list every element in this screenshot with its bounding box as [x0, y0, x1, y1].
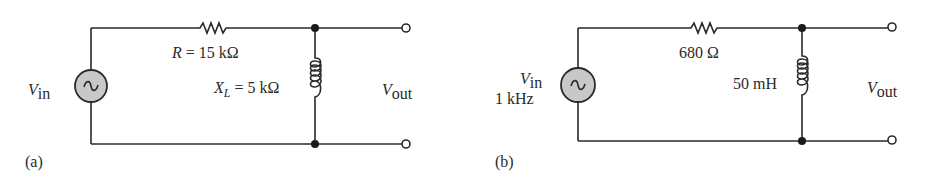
- node-top-a: [311, 24, 319, 32]
- resistor-a: [91, 23, 406, 33]
- terminal-top-a: [402, 24, 410, 32]
- circuit-b: 680 Ω 50 mH Vin 1 kHz Vout (b): [495, 23, 898, 171]
- resistor-b: [578, 23, 892, 33]
- frequency-label-b: 1 kHz: [495, 90, 534, 107]
- terminal-bottom-a: [402, 140, 410, 148]
- vout-label-b: Vout: [867, 79, 898, 100]
- resistor-label-a: R = 15 kΩ: [171, 44, 239, 61]
- vin-label-a: Vin: [28, 81, 50, 102]
- panel-label-b: (b): [495, 153, 514, 171]
- terminal-top-b: [888, 23, 896, 31]
- inductor-b: [798, 28, 809, 141]
- circuit-figure: R = 15 kΩ XL = 5 kΩ Vin Vout (a) 680 Ω 5…: [0, 0, 927, 183]
- vin-label-b: Vin: [520, 70, 542, 91]
- resistor-label-b: 680 Ω: [679, 44, 719, 61]
- node-bottom-b: [798, 137, 806, 145]
- node-top-b: [798, 24, 806, 32]
- inductor-a: [311, 28, 322, 144]
- panel-label-a: (a): [25, 153, 43, 171]
- inductor-label-a: XL = 5 kΩ: [213, 79, 279, 100]
- terminal-bottom-b: [888, 136, 896, 144]
- vout-label-a: Vout: [382, 81, 413, 102]
- inductor-label-b: 50 mH: [733, 75, 777, 92]
- circuit-a: R = 15 kΩ XL = 5 kΩ Vin Vout (a): [25, 23, 413, 171]
- node-bottom-a: [311, 140, 319, 148]
